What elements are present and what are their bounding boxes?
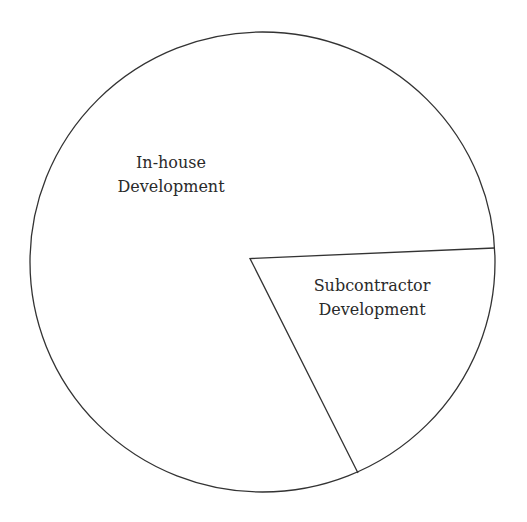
- pie-chart: In-house Development Subcontractor Devel…: [0, 0, 527, 522]
- svg-text:Development: Development: [117, 177, 225, 196]
- svg-text:In-house: In-house: [136, 153, 206, 172]
- svg-text:Subcontractor: Subcontractor: [314, 276, 431, 295]
- pie-outline: [30, 32, 495, 492]
- svg-text:Development: Development: [318, 300, 426, 319]
